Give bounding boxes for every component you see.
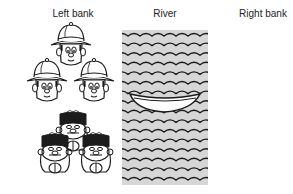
missionary-icon[interactable] [51,22,91,65]
missionary-icon[interactable] [27,58,67,101]
missionary-icon[interactable] [74,58,114,101]
cannibal-icon[interactable] [38,133,72,174]
cannibal-icon[interactable] [79,133,113,174]
left-bank [27,22,114,173]
puzzle-scene [0,0,293,194]
